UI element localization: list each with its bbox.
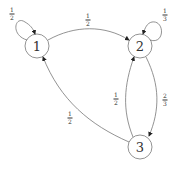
edge-2-3-label: 23 <box>163 92 168 107</box>
edge-2-2 <box>143 22 162 41</box>
edge-2-2-label: 13 <box>163 7 168 22</box>
node-2-label: 2 <box>136 39 144 54</box>
edge-3-1-label: 12 <box>68 110 73 125</box>
edge-1-1 <box>16 21 35 40</box>
edge-1-1-label: 12 <box>10 6 15 21</box>
edge-3-2-label: 12 <box>114 91 119 106</box>
edge-1-2-label: 12 <box>86 12 91 27</box>
edge-2-3 <box>146 57 157 136</box>
edge-1-2 <box>48 29 129 40</box>
edge-3-2 <box>126 57 134 137</box>
node-3-label: 3 <box>136 140 144 155</box>
node-1-label: 1 <box>33 39 41 54</box>
